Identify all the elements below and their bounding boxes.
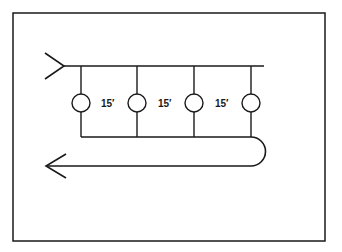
branch-4 [242, 66, 260, 137]
emitter-icon [128, 94, 146, 112]
inlet-arrow-icon [45, 53, 64, 79]
spacing-label-3: 15′ [215, 98, 229, 109]
manifold-diagram: 15′ 15′ 15′ [0, 0, 342, 252]
branch-3 [185, 66, 203, 137]
diagram-frame [13, 13, 325, 241]
emitter-icon [72, 94, 90, 112]
spacing-label-1: 15′ [101, 98, 115, 109]
emitter-icon [185, 94, 203, 112]
branch-1 [72, 66, 90, 137]
emitter-icon [242, 94, 260, 112]
branch-2 [128, 66, 146, 137]
spacing-label-2: 15′ [158, 98, 172, 109]
return-header-line [46, 137, 266, 166]
